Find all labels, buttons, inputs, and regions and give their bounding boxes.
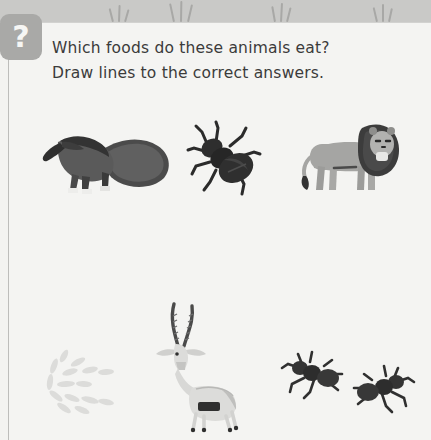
food-gazelle[interactable] [148, 302, 240, 432]
food-seeds[interactable] [40, 350, 122, 414]
top-decorative-band [0, 0, 431, 22]
ant-icon-2 [354, 366, 414, 412]
animal-anteater[interactable] [42, 124, 172, 196]
ant-icon-1 [282, 352, 342, 398]
food-ants[interactable] [278, 352, 416, 416]
worksheet-page: ? Which foods do these animals eat? Draw… [0, 0, 431, 440]
grass-tuft-icon [108, 2, 134, 22]
grass-tuft-icon [270, 2, 296, 22]
grass-tuft-icon [372, 2, 398, 22]
question-mark-icon: ? [0, 14, 42, 60]
grass-tuft-icon [170, 2, 196, 22]
instruction-line-2: Draw lines to the correct answers. [52, 61, 402, 86]
badge-label: ? [0, 14, 42, 60]
animal-beetle[interactable] [186, 120, 264, 198]
instruction-line-1: Which foods do these animals eat? [52, 36, 402, 61]
worksheet-instructions: Which foods do these animals eat? Draw l… [52, 36, 402, 86]
animal-lion[interactable] [300, 114, 402, 196]
